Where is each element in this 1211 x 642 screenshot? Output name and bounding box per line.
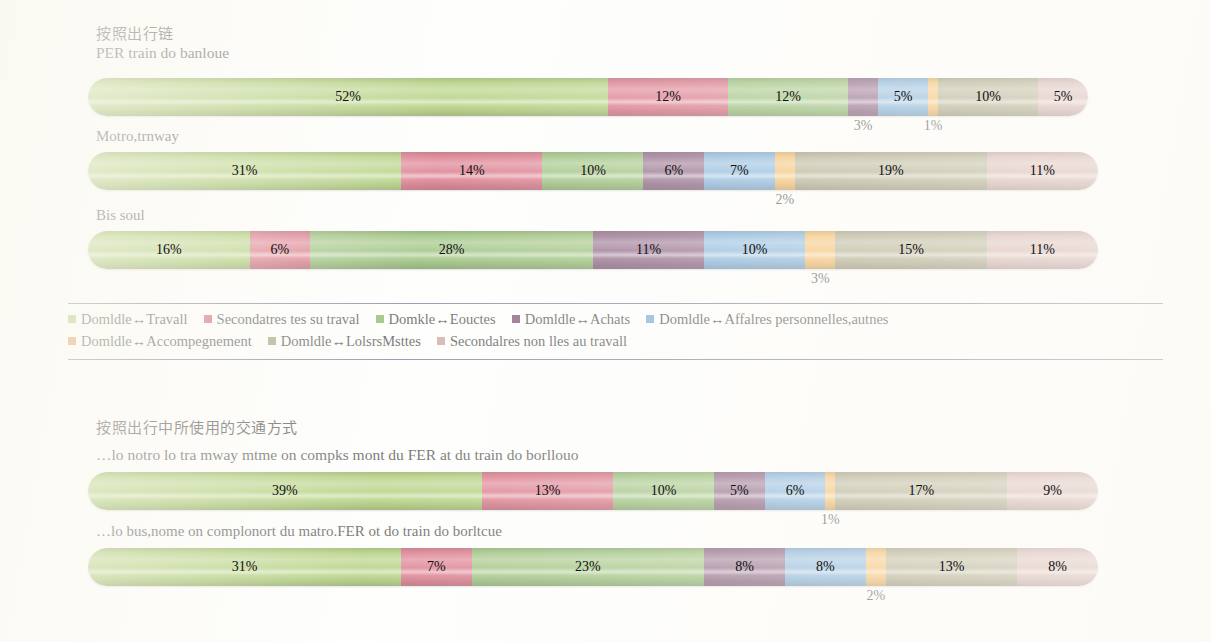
bar-segment: 5% bbox=[1038, 78, 1088, 116]
bar-segment: 11% bbox=[987, 152, 1098, 190]
legend-row-2: Domldle↔AccompegnementDomldle↔LolsrsMstt… bbox=[68, 331, 1163, 353]
legend-item[interactable]: Domldle↔Travall bbox=[68, 309, 188, 331]
legend-item[interactable]: Domldle↔Accompegnement bbox=[68, 331, 252, 353]
segment-value-label: 8% bbox=[1048, 559, 1067, 575]
segment-value-label: 6% bbox=[271, 242, 290, 258]
segment-value-label: 13% bbox=[535, 483, 561, 499]
bar-segment: 6% bbox=[250, 231, 311, 269]
segment-value-label: 52% bbox=[335, 89, 361, 105]
segment-value-label: 39% bbox=[272, 483, 298, 499]
legend-row-1: Domldle↔TravallSecondatres tes su traval… bbox=[68, 309, 1163, 331]
segment-callout-label: 1% bbox=[821, 512, 840, 528]
segment-value-label: 6% bbox=[664, 163, 683, 179]
segment-value-label: 9% bbox=[1043, 483, 1062, 499]
legend-item[interactable]: Domldle↔LolsrsMsttes bbox=[268, 331, 421, 353]
bar-segment: 10% bbox=[704, 231, 805, 269]
segment-value-label: 12% bbox=[655, 89, 681, 105]
legend-item-label: Domldle↔Accompegnement bbox=[81, 331, 252, 353]
bar-segment: 28% bbox=[310, 231, 593, 269]
segment-callout-label: 3% bbox=[811, 271, 830, 287]
bar-segment: 8% bbox=[785, 548, 866, 586]
segment-callout-label: 2% bbox=[776, 192, 795, 208]
bar-segment bbox=[848, 78, 878, 116]
segment-value-label: 8% bbox=[816, 559, 835, 575]
segment-value-label: 28% bbox=[439, 242, 465, 258]
bar-segment: 7% bbox=[704, 152, 775, 190]
bar-segment bbox=[928, 78, 938, 116]
segment-callout-label: 2% bbox=[866, 588, 885, 604]
legend-swatch-icon bbox=[437, 337, 445, 345]
segment-value-label: 6% bbox=[786, 483, 805, 499]
segment-value-label: 17% bbox=[908, 483, 934, 499]
stacked-bar-per-train: 52%12%12%5%10%5% bbox=[88, 78, 1088, 116]
legend-swatch-icon bbox=[376, 315, 384, 323]
chart-canvas: 按照出行链 PER train do banloue 52%12%12%5%10… bbox=[0, 0, 1211, 642]
legend-swatch-icon bbox=[204, 315, 212, 323]
segment-value-label: 10% bbox=[651, 483, 677, 499]
legend-item-label: Domkle↔Eouctes bbox=[389, 309, 496, 331]
segment-value-label: 8% bbox=[735, 559, 754, 575]
bar-segment: 11% bbox=[987, 231, 1098, 269]
bar-segment: 17% bbox=[835, 472, 1007, 510]
segment-value-label: 31% bbox=[232, 163, 258, 179]
legend-item-label: Domldle↔Achats bbox=[525, 309, 631, 331]
bar-segment bbox=[805, 231, 835, 269]
bar-segment: 7% bbox=[401, 548, 472, 586]
bar-segment: 6% bbox=[765, 472, 826, 510]
segment-value-label: 11% bbox=[636, 242, 661, 258]
segment-value-label: 23% bbox=[575, 559, 601, 575]
legend-item-label: Domldle↔Travall bbox=[81, 309, 188, 331]
bar-segment: 12% bbox=[608, 78, 728, 116]
legend-item[interactable]: Domkle↔Eouctes bbox=[376, 309, 496, 331]
segment-value-label: 11% bbox=[1030, 163, 1055, 179]
stacked-bar-metro-rer: 39%13%10%5%6%17%9% bbox=[88, 472, 1098, 510]
bar-segment: 14% bbox=[401, 152, 542, 190]
stacked-bar-bus-metro-rer: 31%7%23%8%8%13%8% bbox=[88, 548, 1098, 586]
legend-item-label: Domldle↔Affalres personnelles,autnes bbox=[659, 309, 888, 331]
bar-segment: 10% bbox=[613, 472, 714, 510]
segment-value-label: 14% bbox=[459, 163, 485, 179]
segment-callout-label: 1% bbox=[924, 118, 943, 134]
bar-segment: 15% bbox=[835, 231, 987, 269]
bar-segment bbox=[825, 472, 835, 510]
legend-swatch-icon bbox=[646, 315, 654, 323]
segment-value-label: 10% bbox=[742, 242, 768, 258]
segment-callout-label: 3% bbox=[854, 118, 873, 134]
segment-value-label: 10% bbox=[580, 163, 606, 179]
bar-segment: 16% bbox=[88, 231, 250, 269]
segment-value-label: 15% bbox=[898, 242, 924, 258]
bar-label-metro-rer: …lo notro lo tra mway mtme on compks mon… bbox=[96, 446, 579, 464]
bar-segment: 8% bbox=[704, 548, 785, 586]
bar-segment: 8% bbox=[1017, 548, 1098, 586]
bar-segment: 39% bbox=[88, 472, 482, 510]
segment-value-label: 7% bbox=[427, 559, 446, 575]
bar-segment: 31% bbox=[88, 548, 401, 586]
legend-item-label: Secondalres non lles au travall bbox=[450, 331, 627, 353]
stacked-bar-metro-tramway: 31%14%10%6%7%19%11% bbox=[88, 152, 1098, 190]
legend-swatch-icon bbox=[68, 315, 76, 323]
segment-value-label: 10% bbox=[975, 89, 1001, 105]
bar-segment: 11% bbox=[593, 231, 704, 269]
stacked-bar-bus-seul: 16%6%28%11%10%15%11% bbox=[88, 231, 1098, 269]
bar-label-bus-seul: Bis soul bbox=[96, 207, 145, 224]
legend-swatch-icon bbox=[268, 337, 276, 345]
legend-item[interactable]: Secondalres non lles au travall bbox=[437, 331, 627, 353]
legend-item[interactable]: Secondatres tes su traval bbox=[204, 309, 360, 331]
legend-item[interactable]: Domldle↔Affalres personnelles,autnes bbox=[646, 309, 888, 331]
legend-item[interactable]: Domldle↔Achats bbox=[512, 309, 631, 331]
segment-value-label: 7% bbox=[730, 163, 749, 179]
bar-segment: 19% bbox=[795, 152, 987, 190]
segment-value-label: 13% bbox=[939, 559, 965, 575]
segment-value-label: 12% bbox=[775, 89, 801, 105]
legend-item-label: Domldle↔LolsrsMsttes bbox=[281, 331, 421, 353]
bar-label-per-train: PER train do banloue bbox=[96, 44, 229, 62]
bar-segment: 52% bbox=[88, 78, 608, 116]
bar-segment: 5% bbox=[714, 472, 765, 510]
bar-segment bbox=[775, 152, 795, 190]
bar-segment: 10% bbox=[938, 78, 1038, 116]
section-1-title-cn: 按照出行链 bbox=[96, 22, 174, 43]
bar-segment: 12% bbox=[728, 78, 848, 116]
bar-segment: 23% bbox=[472, 548, 704, 586]
bar-segment: 13% bbox=[886, 548, 1017, 586]
bar-segment: 6% bbox=[643, 152, 704, 190]
